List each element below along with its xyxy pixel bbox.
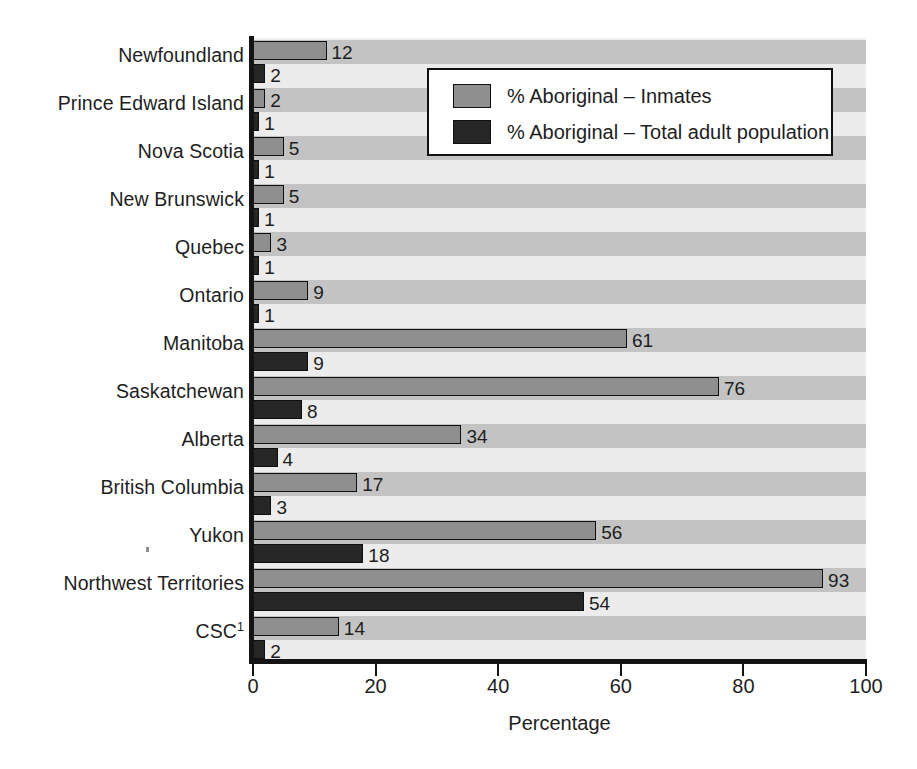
category-label: Northwest Territories bbox=[0, 574, 244, 594]
background-band bbox=[253, 448, 866, 472]
background-band bbox=[253, 400, 866, 424]
bar-value-inmates: 34 bbox=[466, 427, 487, 446]
category-label: Saskatchewan bbox=[0, 382, 244, 402]
x-axis-tick-label: 100 bbox=[849, 676, 882, 696]
bar-total-adult-population bbox=[253, 352, 308, 371]
bar-inmates bbox=[253, 281, 308, 300]
bar-value-total-adult-population: 1 bbox=[264, 114, 275, 133]
bar-value-inmates: 76 bbox=[724, 379, 745, 398]
background-band bbox=[253, 280, 866, 304]
bar-value-total-adult-population: 9 bbox=[313, 354, 324, 373]
legend-entry-total-adult-population: % Aboriginal – Total adult population bbox=[453, 120, 829, 144]
background-band bbox=[253, 496, 866, 520]
category-label: Ontario bbox=[0, 286, 244, 306]
category-label: Yukon bbox=[0, 526, 244, 546]
bar-total-adult-population bbox=[253, 640, 265, 659]
bar-value-total-adult-population: 1 bbox=[264, 210, 275, 229]
bar-value-total-adult-population: 54 bbox=[589, 594, 610, 613]
background-band bbox=[253, 160, 866, 184]
category-axis-labels: NewfoundlandPrince Edward IslandNova Sco… bbox=[0, 38, 244, 662]
bar-inmates bbox=[253, 521, 596, 540]
bar-value-total-adult-population: 1 bbox=[264, 162, 275, 181]
x-axis-tick-label: 40 bbox=[487, 676, 509, 696]
bar-total-adult-population bbox=[253, 400, 302, 419]
category-label: Newfoundland bbox=[0, 46, 244, 66]
category-label: Manitoba bbox=[0, 334, 244, 354]
bar-total-adult-population bbox=[253, 544, 363, 563]
bar-value-inmates: 5 bbox=[289, 187, 300, 206]
bar-value-inmates: 12 bbox=[332, 43, 353, 62]
x-axis-tick-label: 80 bbox=[732, 676, 754, 696]
x-axis-title: Percentage bbox=[253, 712, 866, 735]
background-band bbox=[253, 232, 866, 256]
bar-inmates bbox=[253, 569, 823, 588]
category-label: New Brunswick bbox=[0, 190, 244, 210]
category-label: CSC1 bbox=[0, 622, 244, 642]
bar-inmates bbox=[253, 377, 719, 396]
x-axis-tick-label: 60 bbox=[610, 676, 632, 696]
chart-legend: % Aboriginal – Inmates % Aboriginal – To… bbox=[427, 68, 833, 156]
category-label: British Columbia bbox=[0, 478, 244, 498]
bar-inmates bbox=[253, 89, 265, 108]
bar-total-adult-population bbox=[253, 448, 278, 467]
background-band bbox=[253, 184, 866, 208]
bar-value-total-adult-population: 1 bbox=[264, 306, 275, 325]
x-axis-tick-label: 0 bbox=[247, 676, 258, 696]
category-label: Prince Edward Island bbox=[0, 94, 244, 114]
bar-value-total-adult-population: 1 bbox=[264, 258, 275, 277]
bar-inmates bbox=[253, 425, 461, 444]
bar-total-adult-population bbox=[253, 496, 271, 515]
bar-inmates bbox=[253, 617, 339, 636]
bar-value-total-adult-population: 18 bbox=[368, 546, 389, 565]
y-axis-line bbox=[249, 36, 254, 664]
bar-value-inmates: 5 bbox=[289, 139, 300, 158]
bar-value-inmates: 3 bbox=[276, 235, 287, 254]
category-label: Nova Scotia bbox=[0, 142, 244, 162]
legend-label-inmates: % Aboriginal – Inmates bbox=[507, 86, 712, 106]
category-label: Quebec bbox=[0, 238, 244, 258]
bar-value-inmates: 93 bbox=[828, 571, 849, 590]
bar-value-total-adult-population: 8 bbox=[307, 402, 318, 421]
bar-value-inmates: 17 bbox=[362, 475, 383, 494]
x-axis-line bbox=[249, 659, 867, 664]
bar-inmates bbox=[253, 329, 627, 348]
footnote-marker: 1 bbox=[237, 620, 244, 634]
bar-inmates bbox=[253, 185, 284, 204]
legend-label-total-adult-population: % Aboriginal – Total adult population bbox=[507, 122, 829, 142]
bar-inmates bbox=[253, 233, 271, 252]
bar-value-total-adult-population: 4 bbox=[283, 450, 294, 469]
bar-value-inmates: 2 bbox=[270, 91, 281, 110]
legend-swatch-total-icon bbox=[453, 120, 491, 144]
background-band bbox=[253, 208, 866, 232]
scan-artifact-speck bbox=[146, 547, 149, 552]
x-axis-tick-label: 20 bbox=[364, 676, 386, 696]
bar-inmates bbox=[253, 137, 284, 156]
bar-value-inmates: 14 bbox=[344, 619, 365, 638]
bar-value-inmates: 61 bbox=[632, 331, 653, 350]
bar-total-adult-population bbox=[253, 64, 265, 83]
background-band bbox=[253, 304, 866, 328]
category-label: Alberta bbox=[0, 430, 244, 450]
bar-value-inmates: 9 bbox=[313, 283, 324, 302]
bar-value-inmates: 56 bbox=[601, 523, 622, 542]
legend-entry-inmates: % Aboriginal – Inmates bbox=[453, 84, 712, 108]
legend-swatch-inmates-icon bbox=[453, 84, 491, 108]
chart-figure: NewfoundlandPrince Edward IslandNova Sco… bbox=[0, 0, 917, 769]
bar-inmates bbox=[253, 41, 327, 60]
bar-value-total-adult-population: 2 bbox=[270, 66, 281, 85]
background-band bbox=[253, 352, 866, 376]
bar-inmates bbox=[253, 473, 357, 492]
bar-total-adult-population bbox=[253, 592, 584, 611]
bar-value-total-adult-population: 3 bbox=[276, 498, 287, 517]
background-band bbox=[253, 256, 866, 280]
